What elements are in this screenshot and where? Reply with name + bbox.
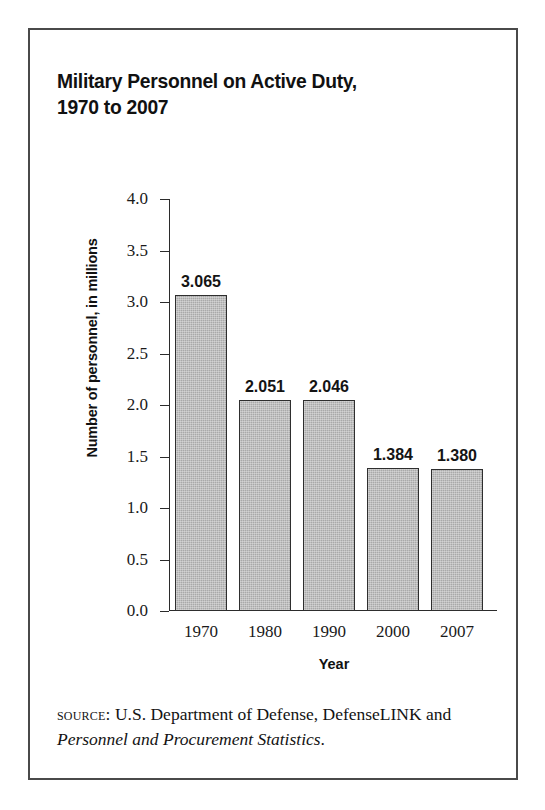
bar-value-label: 3.065 xyxy=(163,273,239,291)
source-text-before: U.S. Department of Defense, DefenseLINK … xyxy=(111,704,452,724)
y-tick-label: 0.0 xyxy=(104,601,148,621)
source-label: source: xyxy=(57,704,111,724)
y-tick-mark xyxy=(160,354,169,355)
source-note: source: U.S. Department of Defense, Defe… xyxy=(57,702,497,752)
x-tick-label: 1970 xyxy=(169,622,233,642)
y-tick-label: 3.5 xyxy=(104,241,148,261)
y-tick-mark xyxy=(160,199,169,200)
y-tick-mark xyxy=(160,611,169,612)
bar xyxy=(367,468,419,611)
y-tick-label: 2.0 xyxy=(104,395,148,415)
x-tick-label: 1990 xyxy=(297,622,361,642)
bar-group: 2.046 xyxy=(297,199,361,611)
x-tick-label: 2007 xyxy=(425,622,489,642)
source-text-after: . xyxy=(321,729,325,749)
y-tick-mark xyxy=(160,457,169,458)
bar xyxy=(239,400,291,611)
y-tick-mark xyxy=(160,251,169,252)
bar xyxy=(431,469,483,611)
plot-area: Number of personnel, in millions 4.03.53… xyxy=(30,30,520,782)
bar-group: 2.051 xyxy=(233,199,297,611)
source-italic-title: Personnel and Procurement Statistics xyxy=(57,729,321,749)
bar-group: 1.384 xyxy=(361,199,425,611)
y-tick-label: 1.0 xyxy=(104,498,148,518)
bar-value-label: 2.046 xyxy=(291,378,367,396)
y-axis-title: Number of personnel, in millions xyxy=(84,218,100,478)
y-tick-label: 2.5 xyxy=(104,344,148,364)
y-tick-label: 3.0 xyxy=(104,292,148,312)
y-tick-mark xyxy=(160,405,169,406)
y-tick-label: 0.5 xyxy=(104,550,148,570)
figure-frame: Military Personnel on Active Duty, 1970 … xyxy=(28,28,518,780)
y-axis-tick-labels: 4.03.53.02.52.01.51.00.50.0 xyxy=(104,30,148,782)
y-tick-label: 4.0 xyxy=(104,189,148,209)
y-tick-mark xyxy=(160,508,169,509)
bar-group: 3.065 xyxy=(169,199,233,611)
x-tick-label: 2000 xyxy=(361,622,425,642)
y-tick-label: 1.5 xyxy=(104,447,148,467)
bar-value-label: 1.380 xyxy=(419,447,495,465)
bar xyxy=(175,295,227,611)
x-tick-label: 1980 xyxy=(233,622,297,642)
y-tick-mark xyxy=(160,302,169,303)
bar-group: 1.380 xyxy=(425,199,489,611)
bar xyxy=(303,400,355,611)
x-axis-tick-labels: 19701980199020002007 xyxy=(169,622,499,650)
x-axis-title: Year xyxy=(169,656,499,672)
bar-series: 3.0652.0512.0461.3841.380 xyxy=(169,199,499,611)
y-tick-mark xyxy=(160,560,169,561)
